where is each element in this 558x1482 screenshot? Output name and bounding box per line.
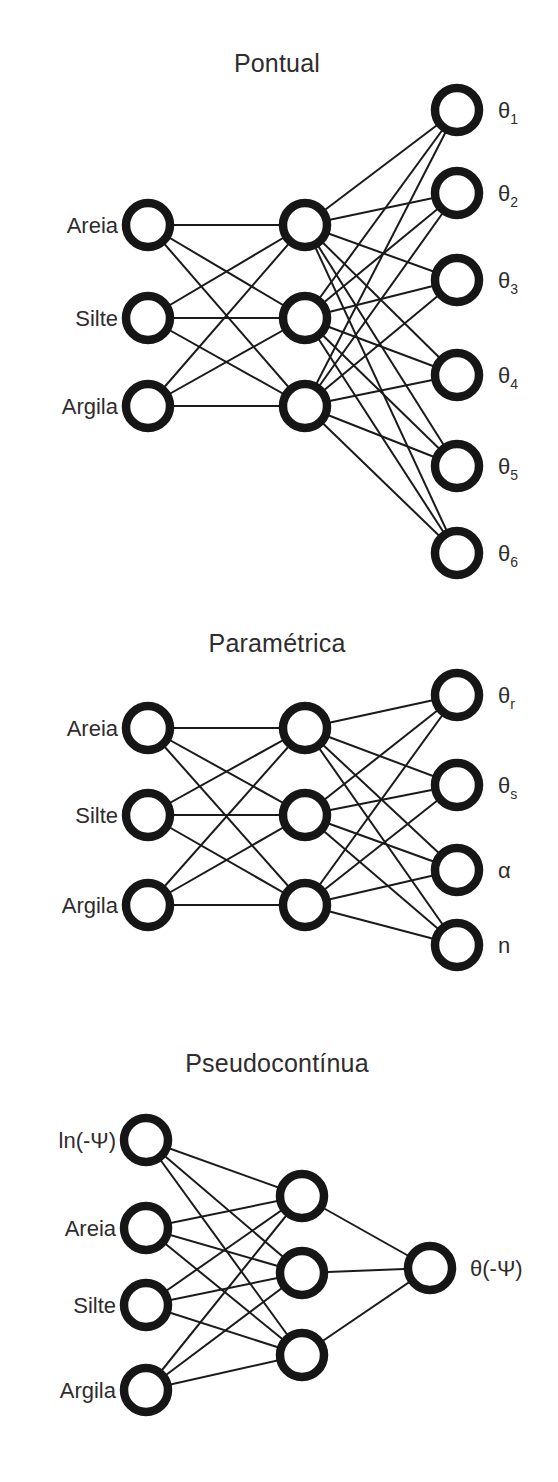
hidden-node-1[interactable]	[283, 706, 327, 750]
hidden-node-1[interactable]	[280, 1174, 324, 1218]
output-label-alpha: α	[498, 858, 511, 883]
pontual-output-nodes: θ1 θ2 θ3 θ4 θ5 θ6	[435, 88, 518, 575]
pontual-svg: Pontual	[0, 0, 558, 600]
output-label-theta-5: θ5	[498, 454, 518, 483]
input-label-argila: Argila	[60, 1378, 117, 1403]
input-label-silte: Silte	[75, 803, 118, 828]
input-label-silte: Silte	[75, 306, 118, 331]
hidden-node-2[interactable]	[283, 296, 327, 340]
input-node-silte[interactable]	[124, 1283, 168, 1327]
parametrica-output-nodes: θr θs α n	[435, 673, 517, 967]
input-label-areia: Areia	[65, 1216, 117, 1241]
pseudocontinua-title: Pseudocontínua	[185, 1049, 369, 1077]
input-label-argila: Argila	[62, 893, 119, 918]
network-diagram-parametrica: Paramétrica	[0, 600, 558, 1020]
output-label-theta-1: θ1	[498, 98, 518, 127]
output-node-theta-3[interactable]	[435, 258, 479, 302]
input-node-argila[interactable]	[126, 883, 170, 927]
input-label-areia: Areia	[67, 716, 119, 741]
edge	[305, 110, 457, 406]
output-label-theta-r: θr	[498, 683, 515, 712]
input-node-areia[interactable]	[124, 1206, 168, 1250]
input-label-silte: Silte	[73, 1293, 116, 1318]
pontual-input-nodes: Areia Silte Argila	[62, 203, 170, 428]
hidden-node-3[interactable]	[280, 1333, 324, 1377]
input-label-ln-psi: ln(-Ψ)	[59, 1128, 116, 1153]
pontual-edges-hidden-output	[305, 110, 457, 553]
output-node-theta-psi[interactable]	[408, 1246, 452, 1290]
output-node-alpha[interactable]	[435, 848, 479, 892]
output-node-n[interactable]	[435, 923, 479, 967]
edge	[305, 318, 457, 466]
output-label-theta-psi: θ(-Ψ)	[470, 1256, 523, 1281]
output-label-theta-4: θ4	[498, 363, 518, 392]
output-node-theta-2[interactable]	[435, 171, 479, 215]
hidden-node-3[interactable]	[283, 384, 327, 428]
pontual-title: Pontual	[234, 49, 320, 77]
input-node-areia[interactable]	[126, 203, 170, 247]
hidden-node-2[interactable]	[283, 793, 327, 837]
network-diagram-pseudocontinua: Pseudocontínua ln(-Ψ) Areia	[0, 1020, 558, 1482]
output-label-theta-6: θ6	[498, 541, 518, 570]
pseudocontinua-input-nodes: ln(-Ψ) Areia Silte Argila	[59, 1118, 168, 1412]
output-node-theta-6[interactable]	[435, 531, 479, 575]
input-label-argila: Argila	[62, 394, 119, 419]
pseudocontinua-svg: Pseudocontínua ln(-Ψ) Areia	[0, 1020, 558, 1482]
input-node-argila[interactable]	[126, 384, 170, 428]
parametrica-title: Paramétrica	[209, 629, 346, 657]
output-label-theta-2: θ2	[498, 181, 518, 210]
parametrica-svg: Paramétrica	[0, 600, 558, 1020]
parametrica-hidden-nodes	[283, 706, 327, 927]
parametrica-input-nodes: Areia Silte Argila	[62, 706, 170, 927]
input-node-ln-psi[interactable]	[124, 1118, 168, 1162]
pseudocontinua-output-nodes: θ(-Ψ)	[408, 1246, 523, 1290]
hidden-node-2[interactable]	[280, 1251, 324, 1295]
output-node-theta-1[interactable]	[435, 88, 479, 132]
input-node-silte[interactable]	[126, 793, 170, 837]
hidden-node-1[interactable]	[283, 203, 327, 247]
input-node-argila[interactable]	[124, 1368, 168, 1412]
input-node-silte[interactable]	[126, 296, 170, 340]
input-node-areia[interactable]	[126, 706, 170, 750]
pseudocontinua-hidden-nodes	[280, 1174, 324, 1377]
hidden-node-3[interactable]	[283, 883, 327, 927]
edge	[305, 110, 457, 225]
pontual-hidden-nodes	[283, 203, 327, 428]
input-label-areia: Areia	[67, 213, 119, 238]
output-node-theta-s[interactable]	[435, 763, 479, 807]
network-diagram-pontual: Pontual	[0, 0, 558, 600]
output-node-theta-4[interactable]	[435, 353, 479, 397]
output-label-theta-3: θ3	[498, 268, 518, 297]
output-node-theta-r[interactable]	[435, 673, 479, 717]
output-node-theta-5[interactable]	[435, 444, 479, 488]
output-label-n: n	[498, 933, 510, 958]
output-label-theta-s: θs	[498, 773, 517, 802]
